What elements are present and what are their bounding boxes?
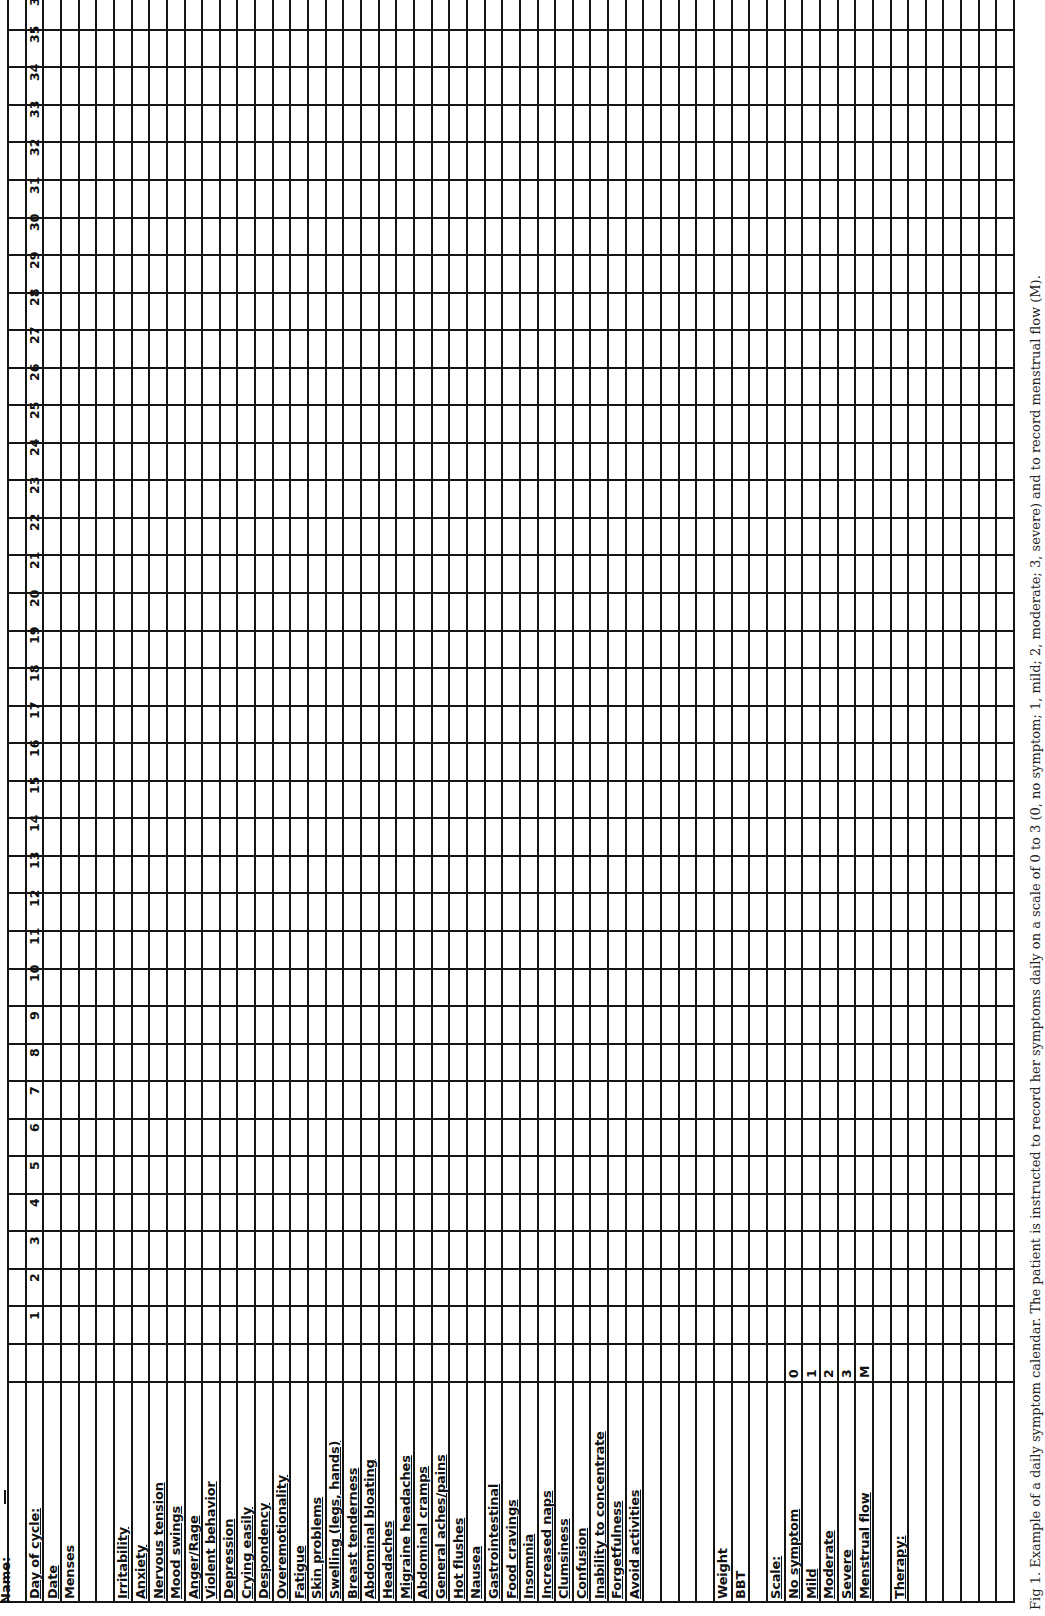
entry-cell[interactable]	[573, 818, 591, 856]
entry-cell[interactable]	[643, 105, 661, 143]
entry-cell[interactable]	[643, 555, 661, 593]
entry-cell[interactable]	[132, 1119, 150, 1157]
entry-cell[interactable]	[891, 105, 909, 143]
entry-cell[interactable]	[802, 555, 820, 593]
entry-cell[interactable]	[43, 1119, 61, 1157]
entry-cell[interactable]	[502, 180, 520, 218]
entry-cell[interactable]	[449, 1156, 467, 1194]
entry-cell[interactable]	[590, 668, 608, 706]
entry-cell[interactable]	[290, 480, 308, 518]
entry-cell[interactable]	[502, 668, 520, 706]
entry-cell[interactable]	[379, 893, 397, 931]
entry-cell[interactable]	[838, 1119, 856, 1157]
entry-cell[interactable]	[114, 1231, 132, 1269]
entry-cell[interactable]	[273, 593, 291, 631]
entry-cell[interactable]	[626, 1119, 644, 1157]
entry-cell[interactable]	[908, 30, 926, 68]
entry-cell[interactable]	[432, 405, 450, 443]
entry-cell[interactable]	[467, 1231, 485, 1269]
entry-cell[interactable]	[255, 30, 273, 68]
entry-cell[interactable]	[767, 1044, 785, 1082]
entry-cell[interactable]	[996, 706, 1014, 744]
entry-cell[interactable]	[643, 368, 661, 406]
entry-cell[interactable]	[237, 631, 255, 669]
entry-cell[interactable]	[961, 30, 979, 68]
entry-cell[interactable]	[114, 67, 132, 105]
entry-cell[interactable]	[767, 0, 785, 30]
entry-cell[interactable]	[749, 1194, 767, 1232]
entry-cell[interactable]	[573, 969, 591, 1007]
entry-cell[interactable]	[661, 180, 679, 218]
entry-cell[interactable]	[343, 1156, 361, 1194]
entry-cell[interactable]	[838, 743, 856, 781]
entry-cell[interactable]	[749, 631, 767, 669]
entry-cell[interactable]	[96, 67, 114, 105]
entry-cell[interactable]	[785, 555, 803, 593]
entry-cell[interactable]	[432, 0, 450, 30]
entry-cell[interactable]	[732, 969, 750, 1007]
entry-cell[interactable]	[979, 518, 997, 556]
entry-cell[interactable]	[61, 743, 79, 781]
entry-cell[interactable]	[485, 218, 503, 256]
entry-cell[interactable]	[855, 30, 873, 68]
entry-cell[interactable]	[149, 105, 167, 143]
entry-cell[interactable]	[185, 1044, 203, 1082]
entry-cell[interactable]	[520, 30, 538, 68]
entry-cell[interactable]	[520, 781, 538, 819]
entry-cell[interactable]	[873, 405, 891, 443]
entry-cell[interactable]	[255, 518, 273, 556]
entry-cell[interactable]	[449, 218, 467, 256]
entry-cell[interactable]	[273, 631, 291, 669]
entry-cell[interactable]	[520, 593, 538, 631]
entry-cell[interactable]	[891, 1119, 909, 1157]
entry-cell[interactable]	[820, 668, 838, 706]
entry-cell[interactable]	[432, 293, 450, 331]
entry-cell[interactable]	[379, 555, 397, 593]
entry-cell[interactable]	[379, 818, 397, 856]
entry-cell[interactable]	[132, 443, 150, 481]
entry-cell[interactable]	[714, 1006, 732, 1044]
entry-cell[interactable]	[237, 518, 255, 556]
entry-cell[interactable]	[220, 818, 238, 856]
entry-cell[interactable]	[767, 1194, 785, 1232]
entry-cell[interactable]	[485, 30, 503, 68]
entry-cell[interactable]	[696, 856, 714, 894]
entry-cell[interactable]	[361, 743, 379, 781]
entry-cell[interactable]	[838, 631, 856, 669]
entry-cell[interactable]	[502, 1269, 520, 1307]
entry-cell[interactable]	[502, 0, 520, 30]
entry-cell[interactable]	[132, 781, 150, 819]
entry-cell[interactable]	[202, 631, 220, 669]
entry-cell[interactable]	[943, 443, 961, 481]
entry-cell[interactable]	[396, 330, 414, 368]
entry-cell[interactable]	[379, 1269, 397, 1307]
entry-cell[interactable]	[820, 1269, 838, 1307]
entry-cell[interactable]	[79, 1156, 97, 1194]
entry-cell[interactable]	[273, 443, 291, 481]
entry-cell[interactable]	[43, 330, 61, 368]
entry-cell[interactable]	[891, 293, 909, 331]
entry-cell[interactable]	[820, 593, 838, 631]
entry-cell[interactable]	[538, 480, 556, 518]
entry-cell[interactable]	[361, 1119, 379, 1157]
entry-cell[interactable]	[149, 893, 167, 931]
entry-cell[interactable]	[185, 706, 203, 744]
entry-cell[interactable]	[749, 893, 767, 931]
entry-cell[interactable]	[643, 856, 661, 894]
entry-cell[interactable]	[326, 856, 344, 894]
entry-cell[interactable]	[590, 593, 608, 631]
entry-cell[interactable]	[996, 668, 1014, 706]
entry-cell[interactable]	[643, 480, 661, 518]
entry-cell[interactable]	[979, 142, 997, 180]
entry-cell[interactable]	[290, 30, 308, 68]
entry-cell[interactable]	[220, 330, 238, 368]
entry-cell[interactable]	[626, 480, 644, 518]
entry-cell[interactable]	[185, 1231, 203, 1269]
entry-cell[interactable]	[326, 893, 344, 931]
entry-cell[interactable]	[943, 480, 961, 518]
entry-cell[interactable]	[943, 1231, 961, 1269]
entry-cell[interactable]	[573, 1306, 591, 1344]
entry-cell[interactable]	[643, 142, 661, 180]
entry-cell[interactable]	[961, 142, 979, 180]
entry-cell[interactable]	[449, 405, 467, 443]
